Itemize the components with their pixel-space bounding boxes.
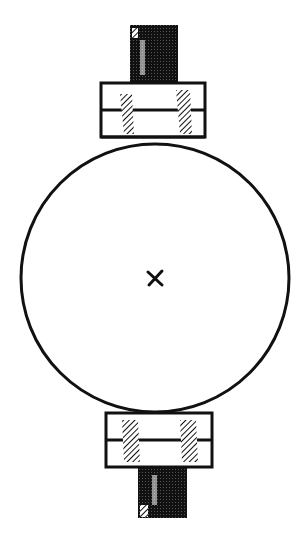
bottom-post	[138, 467, 187, 518]
clamped-sphere-diagram	[0, 0, 308, 541]
top-clamp-block	[101, 83, 205, 137]
bottom-clamp-hatch-left	[122, 420, 140, 462]
top-post	[130, 25, 178, 83]
diagram-canvas	[0, 0, 308, 541]
bottom-clamp-block	[106, 413, 212, 467]
bottom-clamp-hatch-right	[180, 420, 198, 462]
